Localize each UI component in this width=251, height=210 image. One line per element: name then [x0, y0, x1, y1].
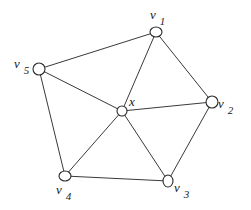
- edge-x-v5: [39, 69, 122, 111]
- edge-x-v3: [122, 111, 168, 181]
- label-v3-main: v: [174, 180, 180, 195]
- label-v5-sub: 5: [24, 64, 30, 76]
- label-x: x: [129, 93, 135, 109]
- edge-x-v2: [122, 102, 212, 111]
- edge-v1-v2: [156, 32, 212, 102]
- label-v4-main: v: [56, 182, 62, 197]
- edge-v3-v4: [65, 176, 168, 181]
- label-v1-sub: 1: [160, 15, 166, 27]
- label-v2: v2: [218, 95, 233, 111]
- label-v4: v4: [56, 181, 71, 197]
- node-v4: [59, 171, 71, 181]
- node-x: [117, 106, 127, 116]
- label-v2-main: v: [218, 96, 224, 111]
- node-v5: [33, 63, 45, 75]
- edge-v2-v3: [168, 102, 212, 181]
- label-x-main: x: [129, 94, 135, 109]
- edge-x-v4: [65, 111, 122, 176]
- label-v5-main: v: [14, 56, 20, 71]
- graph-nodes: [33, 27, 218, 187]
- edge-v5-v1: [39, 32, 156, 69]
- graph-edges: [39, 32, 212, 181]
- edge-v4-v5: [39, 69, 65, 176]
- label-v3: v3: [174, 179, 189, 195]
- node-v1: [150, 27, 162, 37]
- wheel-graph-diagram: [0, 0, 251, 210]
- label-v5: v5: [14, 55, 29, 71]
- label-v1: v1: [150, 6, 165, 22]
- label-v3-sub: 3: [184, 188, 190, 200]
- node-v3: [163, 175, 173, 187]
- node-v2: [206, 96, 218, 108]
- label-v1-main: v: [150, 7, 156, 22]
- label-v4-sub: 4: [66, 190, 72, 202]
- edge-x-v1: [122, 32, 156, 111]
- label-v2-sub: 2: [228, 104, 234, 116]
